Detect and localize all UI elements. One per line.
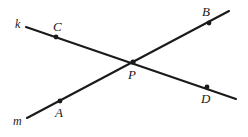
geometry-canvas bbox=[0, 0, 248, 137]
point-marker-p bbox=[130, 59, 135, 64]
point-label-b: B bbox=[202, 5, 210, 18]
point-label-p: P bbox=[128, 68, 136, 81]
geometry-figure: k m C B P A D bbox=[0, 0, 248, 137]
point-marker-d bbox=[205, 85, 210, 90]
point-label-c: C bbox=[53, 20, 62, 33]
line-label-k: k bbox=[15, 18, 20, 30]
point-marker-b bbox=[207, 21, 212, 26]
line-label-m: m bbox=[13, 115, 22, 127]
point-label-a: A bbox=[55, 106, 63, 119]
point-label-d: D bbox=[201, 92, 210, 105]
point-marker-a bbox=[58, 99, 63, 104]
point-marker-c bbox=[54, 35, 59, 40]
